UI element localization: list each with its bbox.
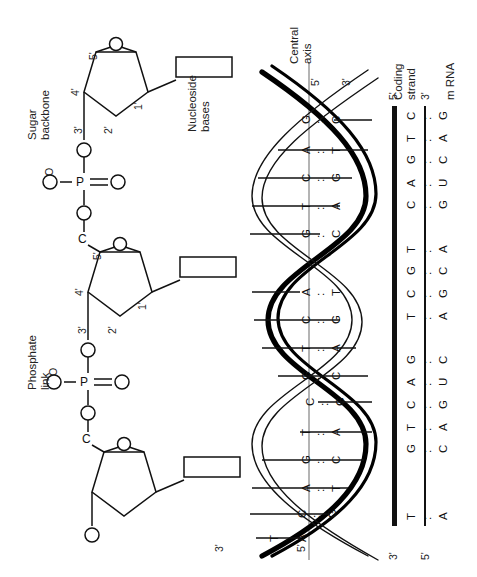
- base-pair-sep-10: :: [314, 433, 327, 436]
- base-pair-sep-7: :: [314, 349, 327, 352]
- helix-top-5prime: 5': [310, 78, 322, 86]
- pair-mark-4: :: [421, 205, 434, 208]
- base-pair-sep-3: :: [314, 207, 327, 210]
- mrna-base-15: C: [437, 444, 450, 453]
- coding-base-18: T: [405, 512, 418, 519]
- base-pair-left-5: T: [330, 289, 343, 296]
- mrna-base-8: G: [437, 288, 450, 297]
- pair-mark-3: :: [421, 183, 434, 186]
- mrna-base-12: U: [437, 378, 450, 387]
- coding-strand-3prime: 3': [388, 552, 400, 560]
- pair-mark-13: :: [421, 405, 434, 408]
- base-pair-left-11: C: [330, 455, 343, 464]
- base-pair-sep-5: :: [314, 293, 327, 296]
- mrna-base-13: G: [437, 399, 450, 408]
- base-pair-left-6: G: [330, 315, 343, 324]
- coding-base-12: A: [405, 379, 418, 387]
- coding-base-1: T: [405, 135, 418, 142]
- mrna-5prime-bottom: 5': [420, 552, 432, 560]
- base-pair-sep-8: :: [314, 377, 327, 380]
- mrna-base-6: A: [437, 245, 450, 253]
- base-pair-sep-13: :: [310, 515, 323, 518]
- base-pair-sep-0: :: [314, 121, 327, 124]
- base-pair-left-10: A: [330, 428, 343, 436]
- base-pair-left-9: G: [334, 397, 347, 406]
- base-pair-right-4: G: [300, 229, 313, 238]
- coding-base-14: T: [405, 424, 418, 431]
- mrna-base-1: A: [437, 134, 450, 142]
- base-pair-left-7: A: [330, 344, 343, 352]
- base-pair-right-1: A: [300, 146, 313, 154]
- base-pair-left-1: T: [330, 147, 343, 154]
- pair-mark-11: :: [421, 361, 434, 364]
- base-pair-sep-6: :: [314, 321, 327, 324]
- base-pair-sep-4: :: [314, 235, 327, 238]
- base-pair-right-3: T: [300, 203, 313, 210]
- coding-base-7: G: [405, 266, 418, 275]
- pair-mark-1: :: [421, 139, 434, 142]
- base-pair-sep-14: :: [282, 539, 295, 542]
- helix-bottom-3prime: 3': [214, 544, 226, 552]
- coding-base-6: T: [405, 246, 418, 253]
- base-pair-right-10: T: [300, 429, 313, 436]
- figure-canvas: P C P: [0, 0, 477, 577]
- pair-mark-0: :: [421, 117, 434, 120]
- pair-mark-7: :: [421, 272, 434, 275]
- base-pair-right-7: T: [300, 345, 313, 352]
- base-pair-left-0: C: [330, 115, 343, 124]
- base-pair-sep-12: :: [314, 489, 327, 492]
- base-pair-left-13: G: [326, 509, 339, 518]
- base-pair-right-8: G: [300, 371, 313, 380]
- base-pair-right-9: C: [304, 397, 317, 406]
- base-pair-left-4: C: [330, 229, 343, 238]
- mrna-base-9: A: [437, 312, 450, 320]
- mrna-base-4: G: [437, 200, 450, 209]
- coding-base-9: T: [405, 313, 418, 320]
- base-pair-sep-9: :: [318, 403, 331, 406]
- pair-mark-8: :: [421, 294, 434, 297]
- mrna-base-0: G: [437, 111, 450, 120]
- base-pair-left-14: A: [296, 534, 309, 542]
- mrna-base-11: C: [437, 356, 450, 365]
- pair-mark-12: :: [421, 383, 434, 386]
- mrna-3prime-top: 3': [420, 92, 432, 100]
- coding-base-4: C: [405, 200, 418, 209]
- base-pair-right-6: C: [300, 315, 313, 324]
- label-central-axis: Central axis: [288, 27, 314, 64]
- pair-mark-14: :: [421, 427, 434, 430]
- coding-strand-bar: [392, 106, 397, 526]
- mrna-base-2: C: [437, 156, 450, 165]
- base-pair-right-13: C: [296, 509, 309, 518]
- base-pair-right-14: T: [268, 535, 281, 542]
- base-pair-sep-11: :: [314, 461, 327, 464]
- label-mrna: m RNA: [444, 63, 457, 100]
- base-pair-left-12: T: [330, 485, 343, 492]
- pair-mark-2: :: [421, 161, 434, 164]
- pair-mark-18: :: [421, 516, 434, 519]
- coding-base-15: G: [405, 444, 418, 453]
- base-pair-left-3: A: [330, 202, 343, 210]
- mrna-base-14: A: [437, 423, 450, 431]
- base-pair-right-12: A: [300, 484, 313, 492]
- pair-mark-9: :: [421, 316, 434, 319]
- pair-mark-15: :: [421, 450, 434, 453]
- base-pair-sep-1: :: [314, 151, 327, 154]
- coding-base-3: A: [405, 179, 418, 187]
- base-pair-right-0: G: [300, 115, 313, 124]
- mrna-base-7: C: [437, 267, 450, 276]
- helix-bottom-5prime: 5': [296, 544, 308, 552]
- base-pair-sep-2: :: [314, 179, 327, 182]
- base-pair-right-2: C: [300, 173, 313, 182]
- coding-base-8: C: [405, 289, 418, 298]
- helix-top-3prime: 3': [341, 78, 353, 86]
- coding-base-0: C: [405, 111, 418, 120]
- mrna-base-3: U: [437, 178, 450, 187]
- base-pair-left-8: C: [330, 371, 343, 380]
- mrna-base-18: A: [437, 512, 450, 520]
- base-pair-right-5: A: [300, 288, 313, 296]
- coding-strand-5prime: 5': [388, 92, 400, 100]
- pair-mark-6: :: [421, 250, 434, 253]
- coding-base-11: G: [405, 355, 418, 364]
- coding-base-13: C: [405, 400, 418, 409]
- base-pair-left-2: G: [330, 173, 343, 182]
